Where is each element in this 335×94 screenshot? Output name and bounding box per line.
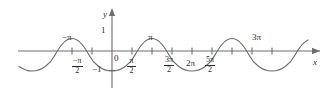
x-tick-label-minus-pi: −π bbox=[62, 33, 72, 42]
fraction-numerator: 5π bbox=[205, 56, 215, 64]
fraction-numerator: −π bbox=[72, 57, 83, 65]
fraction-numerator: π bbox=[128, 57, 134, 65]
x-tick-label-three-pi: 3π bbox=[252, 33, 261, 42]
x-tick-label-minus-pi-over-2: −π 2 bbox=[72, 57, 83, 76]
y-axis bbox=[109, 8, 115, 88]
y-axis-arrowhead bbox=[109, 8, 115, 16]
x-tick-label-five-pi-over-2: 5π 2 bbox=[205, 56, 215, 75]
fraction-denominator: 2 bbox=[129, 67, 135, 75]
y-tick-label-minus-1: −1 bbox=[92, 65, 102, 74]
x-axis-label: x bbox=[313, 58, 317, 67]
fraction-denominator: 2 bbox=[74, 67, 80, 75]
x-tick-label-two-pi: 2π bbox=[186, 59, 195, 68]
fraction-denominator: 2 bbox=[207, 66, 213, 74]
y-tick-label-1: 1 bbox=[101, 26, 106, 35]
x-tick-label-pi-over-2: π 2 bbox=[127, 57, 136, 76]
fraction-numerator: 3π bbox=[164, 56, 174, 64]
plot-area bbox=[0, 0, 335, 94]
x-tick-label-pi: π bbox=[148, 33, 153, 42]
y-axis-label: y bbox=[103, 10, 107, 19]
x-axis-arrowhead bbox=[312, 48, 320, 54]
x-tick-label-three-pi-over-2: 3π 2 bbox=[164, 56, 174, 75]
x-axis bbox=[18, 48, 320, 54]
fraction-denominator: 2 bbox=[166, 66, 172, 74]
origin-label: 0 bbox=[114, 54, 119, 63]
cosine-graph-figure: y x 0 1 −1 −π −π 2 π 2 π 3π 2 2π 5π 2 3π bbox=[0, 0, 335, 94]
